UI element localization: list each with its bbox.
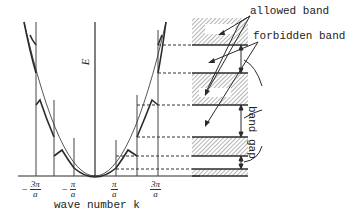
zone-boundary-lines (36, 22, 158, 176)
tick-minus-3pi-over-a: −3πa (22, 180, 41, 199)
allowed-bands (192, 18, 248, 176)
tick-minus-pi-over-a: −πa (62, 180, 76, 199)
forbidden-band-label: forbidden band (253, 31, 345, 42)
tick-3pi-over-a: 3πa (150, 180, 161, 199)
allowed-band-label: allowed band (250, 6, 329, 17)
energy-axis-label: E (79, 59, 91, 66)
tick-pi-over-a: πa (111, 180, 118, 199)
band-structure-diagram: E allowed band forbidden band band gap −… (0, 0, 362, 215)
k-axis-label: wave number k (54, 200, 140, 211)
band-gap-label: band gap (246, 106, 258, 159)
